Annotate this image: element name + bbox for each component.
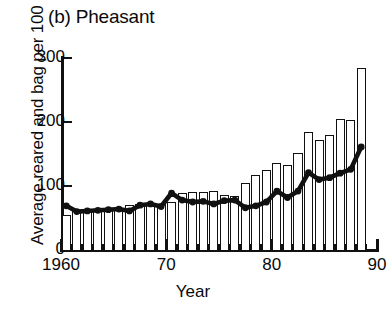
bar — [315, 140, 324, 250]
bar — [209, 191, 218, 250]
x-tick-label: 80 — [262, 255, 281, 275]
bar — [178, 193, 187, 250]
bar — [272, 163, 281, 250]
bar — [104, 210, 113, 250]
bar — [220, 195, 229, 250]
bar — [125, 205, 134, 250]
bar — [357, 68, 366, 250]
bar — [325, 135, 334, 250]
bar — [346, 120, 355, 250]
bar — [188, 192, 197, 250]
bar — [293, 153, 302, 250]
plot-area — [61, 57, 375, 250]
bar — [135, 204, 144, 250]
bar — [146, 203, 155, 250]
x-tick-major — [376, 239, 379, 252]
bar — [199, 192, 208, 250]
bar — [114, 208, 123, 250]
bar — [83, 210, 92, 250]
bar — [336, 119, 345, 250]
bar — [251, 175, 260, 250]
bar — [72, 210, 81, 250]
x-tick-label: 90 — [368, 255, 386, 275]
bar — [93, 210, 102, 250]
bar — [262, 170, 271, 250]
bar — [241, 183, 250, 250]
bar — [304, 132, 313, 250]
x-axis-title: Year — [0, 282, 386, 302]
chart-figure: Average reared and bag per 100 ha (b) Ph… — [0, 0, 386, 312]
x-tick-label: 70 — [157, 255, 176, 275]
bar — [62, 215, 71, 250]
bar — [157, 204, 166, 250]
bar — [167, 202, 176, 250]
bar — [283, 165, 292, 250]
bar — [230, 196, 239, 250]
x-tick-label: 1960 — [42, 255, 80, 275]
panel-title: (b) Pheasant — [48, 6, 154, 28]
